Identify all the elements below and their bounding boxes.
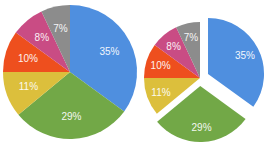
slice-label: 8% xyxy=(166,41,181,52)
slice-label: 7% xyxy=(184,32,199,43)
slice-label: 10% xyxy=(18,53,38,64)
slice-label: 29% xyxy=(192,122,212,133)
slice-label: 35% xyxy=(99,46,119,57)
slice-label: 7% xyxy=(53,23,68,34)
slice-label: 29% xyxy=(61,111,81,122)
pie-charts: 35%29%11%10%8%7% 35%29%11%10%8%7% xyxy=(0,0,271,148)
pie-chart-exploded: 35%29%11%10%8%7% xyxy=(144,18,264,142)
slice-label: 10% xyxy=(151,60,171,71)
slice-label: 35% xyxy=(235,50,255,61)
slice-label: 11% xyxy=(151,87,170,98)
pie-slice xyxy=(208,18,264,107)
slice-label: 11% xyxy=(19,81,38,92)
pie-chart-standard: 35%29%11%10%8%7% xyxy=(3,5,137,139)
slice-label: 8% xyxy=(35,32,50,43)
